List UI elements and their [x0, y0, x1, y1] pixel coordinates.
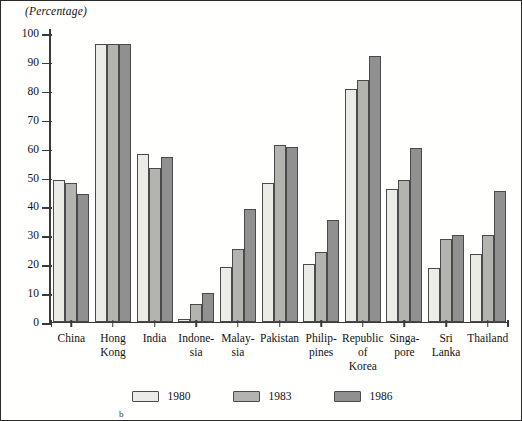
x-tick-mark [195, 320, 197, 327]
x-axis-label: Singa-pore [384, 331, 426, 373]
x-axis-label: RepublicofKorea [342, 331, 384, 373]
bar-1983 [357, 80, 369, 321]
x-axis-label-line: Malay- [217, 331, 259, 345]
x-axis-label-line: Hong [92, 331, 134, 345]
bar-1980 [345, 89, 357, 322]
bar-1980 [95, 44, 107, 321]
x-tick-mark [320, 320, 322, 327]
bar-1980 [178, 319, 190, 322]
y-tick-label: 10 [28, 288, 40, 300]
legend-item: 1983 [233, 390, 292, 402]
bar-group [51, 33, 93, 322]
bar-1986 [77, 194, 89, 321]
x-axis-label: Thailand [467, 331, 509, 373]
y-tick-label: 20 [28, 259, 40, 271]
y-tick-label: 0 [33, 317, 39, 329]
y-tick-label: 60 [28, 144, 40, 156]
x-axis-label-line: sia [175, 345, 217, 359]
x-axis-label: Philip-pines [300, 331, 342, 373]
chart-legend: 198019831986 [1, 390, 522, 402]
bar-1986 [327, 220, 339, 321]
bar-1983 [149, 168, 161, 321]
y-tick-label: 30 [28, 231, 40, 243]
x-tick-mark-start [51, 320, 53, 327]
legend-swatch [233, 391, 260, 402]
bar-1980 [386, 189, 398, 322]
bar-group [217, 33, 259, 322]
x-axis-label-line: China [51, 331, 93, 345]
legend-label: 1986 [370, 390, 393, 402]
x-tick-mark-end [507, 320, 509, 327]
y-tick-label: 100 [22, 28, 39, 40]
x-axis-label: Malay-sia [217, 331, 259, 373]
bar-1986 [494, 191, 506, 321]
bar-group [342, 33, 384, 322]
bar-1986 [244, 209, 256, 322]
bar-1983 [65, 183, 77, 322]
bar-group [384, 33, 426, 322]
bar-group [175, 33, 217, 322]
x-axis-label: HongKong [92, 331, 134, 373]
x-axis-label-line: Korea [342, 359, 384, 373]
bar-group [259, 33, 301, 322]
bar-1980 [53, 180, 65, 322]
x-tick-mark [362, 320, 364, 327]
x-axis-label: Sri Lanka [425, 331, 467, 373]
bar-1983 [315, 252, 327, 321]
y-tick-label: 70 [28, 115, 40, 127]
y-tick-label: 80 [28, 86, 40, 98]
x-tick-mark [279, 320, 281, 327]
x-axis-label-line: Thailand [467, 331, 509, 345]
bar-1986 [369, 56, 381, 322]
bar-groups [51, 33, 509, 322]
x-tick-mark [237, 320, 239, 327]
x-axis-label-line: of [342, 345, 384, 359]
x-axis-label-line: pore [384, 345, 426, 359]
x-axis-labels: ChinaHongKongIndiaIndone-siaMalay-siaPak… [51, 331, 509, 373]
bar-1980 [262, 183, 274, 322]
bar-group [92, 33, 134, 322]
bar-1986 [410, 148, 422, 321]
x-axis-label: China [51, 331, 93, 373]
x-axis-label-line: Kong [92, 345, 134, 359]
y-tick-label: 50 [28, 173, 40, 185]
chart-frame: (Percentage) 0102030405060708090100 Chin… [0, 0, 522, 421]
bar-1986 [161, 157, 173, 322]
y-tick-label: 40 [28, 202, 40, 214]
bar-1983 [440, 239, 452, 321]
x-axis-label: India [134, 331, 176, 373]
x-axis-label-line: sia [217, 345, 259, 359]
bar-1980 [428, 268, 440, 321]
bar-1980 [303, 264, 315, 322]
bar-1983 [232, 249, 244, 321]
x-tick-mark [112, 320, 114, 327]
plot-area: 0102030405060708090100 [49, 34, 509, 323]
bar-group [134, 33, 176, 322]
x-axis-label-line: Singa- [384, 331, 426, 345]
y-axis-unit-caption: (Percentage) [25, 5, 87, 17]
bar-group [467, 33, 509, 322]
x-axis-label-line: pines [300, 345, 342, 359]
x-tick-mark [154, 320, 156, 327]
bar-1986 [286, 147, 298, 322]
x-axis-label-line: Philip- [300, 331, 342, 345]
bar-1986 [452, 235, 464, 322]
bar-1980 [137, 154, 149, 322]
y-tick-label: 90 [28, 57, 40, 69]
bar-1980 [470, 254, 482, 322]
legend-label: 1980 [168, 390, 191, 402]
legend-item: 1980 [132, 390, 191, 402]
bar-group [425, 33, 467, 322]
bar-1983 [482, 235, 494, 322]
bar-1986 [119, 44, 131, 321]
x-axis-label-line: Republic [342, 331, 384, 345]
bar-group [300, 33, 342, 322]
x-axis-label: Indone-sia [175, 331, 217, 373]
x-axis-label-line: Indone- [175, 331, 217, 345]
legend-item: 1986 [334, 390, 393, 402]
x-axis-label-line: Pakistan [259, 331, 301, 345]
footnote-marker: b [119, 409, 124, 419]
bar-1983 [274, 145, 286, 321]
legend-label: 1983 [269, 390, 292, 402]
bar-1986 [202, 293, 214, 322]
